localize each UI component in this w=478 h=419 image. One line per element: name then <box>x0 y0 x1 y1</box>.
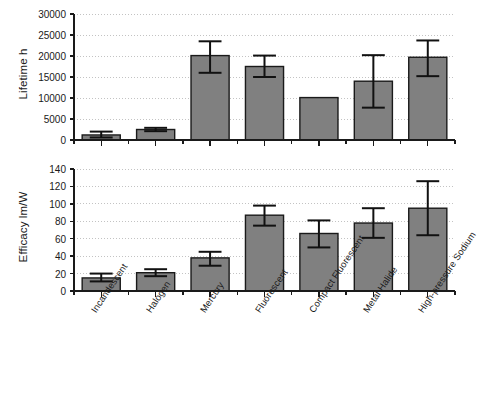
chart-panel-efficacy: Efficacy lm/W 020406080100120140 <box>0 155 467 305</box>
y-tick-label: 10000 <box>18 93 66 104</box>
plot-area-lifetime <box>0 0 467 155</box>
y-tick-label: 20 <box>18 268 66 279</box>
y-tick-label: 5000 <box>18 114 66 125</box>
y-tick-label: 15000 <box>18 72 66 83</box>
y-tick-label: 40 <box>18 251 66 262</box>
y-tick-label: 60 <box>18 233 66 244</box>
y-tick-label: 100 <box>18 198 66 209</box>
y-tick-label: 140 <box>18 164 66 175</box>
chart-panel-lifetime: Lifetime h 05000100001500020000250003000… <box>0 0 467 155</box>
x-axis-category-labels: IncandescentHalogenMercuryFluorescentCom… <box>0 300 467 419</box>
plot-area-efficacy <box>0 155 467 305</box>
y-tick-label: 0 <box>18 286 66 297</box>
bar-4 <box>300 98 338 140</box>
y-tick-label: 25000 <box>18 30 66 41</box>
y-tick-label: 120 <box>18 181 66 192</box>
y-tick-label: 30000 <box>18 9 66 20</box>
y-tick-label: 0 <box>18 135 66 146</box>
y-tick-label: 80 <box>18 216 66 227</box>
y-tick-label: 20000 <box>18 51 66 62</box>
